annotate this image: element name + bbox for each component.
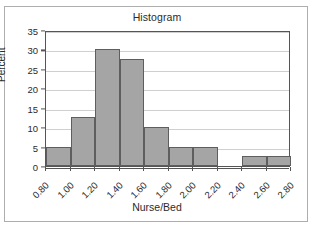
y-tick-label: 35	[14, 26, 38, 37]
y-tick-label: 20	[14, 84, 38, 95]
y-tick-label: 30	[14, 45, 38, 56]
x-axis-title: Nurse/Bed	[0, 201, 314, 213]
histogram-bar	[71, 117, 96, 166]
y-axis-title: Percent	[0, 48, 7, 82]
histogram-bar	[193, 147, 218, 166]
histogram-screenshot: Histogram Percent 05101520253035 0.801.0…	[0, 0, 314, 230]
y-tick-label: 5	[14, 142, 38, 153]
histogram-bar	[120, 59, 145, 166]
histogram-bar	[242, 156, 267, 166]
y-tick-label: 0	[14, 162, 38, 173]
y-tick-label: 25	[14, 64, 38, 75]
histogram-bar	[144, 127, 169, 166]
histogram-bar	[169, 147, 194, 166]
histogram-bar	[95, 49, 120, 166]
histogram-bar	[267, 156, 292, 166]
y-tick-label: 15	[14, 103, 38, 114]
chart-title: Histogram	[0, 11, 314, 23]
x-tick-mark	[290, 167, 291, 171]
gridline	[46, 168, 289, 169]
plot-area	[45, 31, 290, 167]
y-tick-label: 10	[14, 123, 38, 134]
bar-series	[46, 32, 289, 166]
histogram-bar	[46, 147, 71, 166]
